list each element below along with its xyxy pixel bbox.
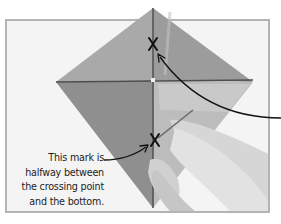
caption-line: and the bottom. [4,195,104,210]
spar-joint [151,78,155,82]
caption-line: halfway between [4,166,104,181]
caption-text: This mark is halfway between the crossin… [4,151,104,209]
caption-line: This mark is [4,151,104,166]
caption-line: the crossing point [4,180,104,195]
